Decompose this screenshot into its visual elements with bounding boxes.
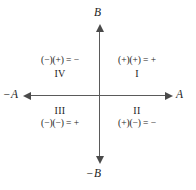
quadrant-sign-diagram: B −B −A A (−)(+) = − IV (+)(+) = + I III… [0,0,196,190]
axis-label-a-negative: −A [3,88,18,100]
horizontal-axis-line [29,95,167,96]
quadrant-top-right-expression: (+)(+) = + [101,54,173,67]
quadrant-bottom-right-numeral: II [101,104,173,117]
quadrant-bottom-right-expression: (+)(−) = − [101,117,173,130]
quadrant-bottom-left-expression: (−)(−) = + [24,117,96,130]
axis-label-b-negative: −B [86,167,101,179]
quadrant-top-left-numeral: IV [24,67,96,80]
arrow-left-icon [23,92,31,100]
axis-label-a-positive: A [176,88,183,100]
quadrant-bottom-left: III (−)(−) = + [24,104,96,130]
quadrant-bottom-left-numeral: III [24,104,96,117]
axis-label-b-positive: B [94,6,101,18]
arrow-right-icon [165,92,173,100]
quadrant-top-left: (−)(+) = − IV [24,54,96,80]
quadrant-top-left-expression: (−)(+) = − [24,54,96,67]
quadrant-top-right: (+)(+) = + I [101,54,173,80]
quadrant-top-right-numeral: I [101,67,173,80]
arrow-up-icon [96,24,104,32]
quadrant-bottom-right: II (+)(−) = − [101,104,173,130]
arrow-down-icon [96,156,104,164]
